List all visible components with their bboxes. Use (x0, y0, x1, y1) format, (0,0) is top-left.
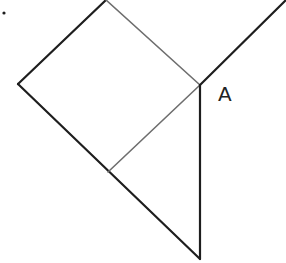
geometry-diagram: A (0, 0, 286, 263)
square-edge-top-right (106, 0, 200, 85)
square-edge-top-left (18, 0, 106, 84)
vertex-label-a: A (218, 82, 232, 106)
dot-marker (2, 11, 5, 14)
extension-line-top-right (200, 0, 286, 85)
square-edge-inner (108, 85, 200, 172)
